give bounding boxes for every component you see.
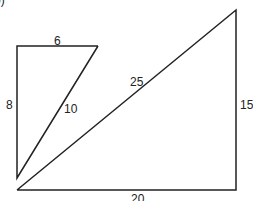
part-label: b) <box>0 0 5 6</box>
small-left-side-label: 8 <box>6 99 13 111</box>
small-top-side-label: 6 <box>54 35 61 47</box>
small-right-triangle <box>17 46 98 178</box>
small-hypotenuse-label: 10 <box>64 103 77 115</box>
large-right-side-label: 15 <box>240 99 253 111</box>
triangles-diagram <box>0 0 253 201</box>
large-bottom-side-label: 20 <box>131 193 144 201</box>
large-hypotenuse-label: 25 <box>130 76 143 88</box>
large-right-triangle <box>17 10 236 190</box>
